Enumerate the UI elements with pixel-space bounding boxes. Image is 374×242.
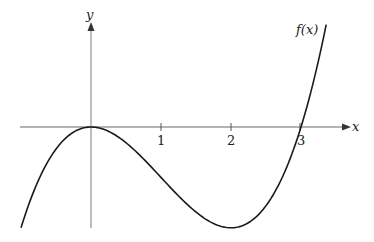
tick-label-1: 1 — [157, 133, 165, 148]
x-axis-arrow-icon — [342, 124, 351, 131]
graph-canvas: 1 2 3 x y f(x) — [0, 0, 374, 242]
tick-label-3: 3 — [297, 133, 305, 148]
y-axis-arrow-icon — [88, 22, 95, 31]
function-curve — [21, 25, 326, 228]
y-axis-label: y — [85, 7, 94, 22]
tick-label-2: 2 — [227, 133, 235, 148]
x-axis-label: x — [352, 119, 360, 134]
curve-label: f(x) — [295, 22, 318, 37]
